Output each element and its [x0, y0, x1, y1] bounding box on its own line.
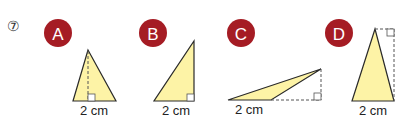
right-angle-mark-d	[387, 29, 394, 36]
badge-d-label: D	[333, 25, 345, 44]
triangle-d-shape	[352, 29, 394, 101]
right-angle-mark-b	[187, 94, 194, 101]
triangle-b-base-label: 2 cm	[162, 103, 190, 118]
right-angle-mark-a	[88, 94, 95, 101]
triangle-b: B 2 cm	[139, 19, 194, 118]
badge-a-label: A	[52, 25, 64, 44]
triangle-b-shape	[154, 41, 194, 101]
triangle-a-shape	[73, 50, 116, 101]
triangle-c-base-label: 2 cm	[235, 102, 263, 117]
right-angle-mark-c	[314, 93, 321, 100]
triangle-a: A 2 cm	[44, 19, 116, 118]
triangles-diagram: ⑦ A 2 cm B 2 cm C 2 cm D 2 cm	[0, 0, 399, 121]
triangle-c: C 2 cm	[227, 19, 321, 117]
triangle-a-base-label: 2 cm	[80, 103, 108, 118]
triangle-c-shape	[228, 69, 321, 100]
badge-b-label: B	[147, 25, 158, 44]
triangle-d: D 2 cm	[325, 19, 394, 118]
triangle-d-base-label: 2 cm	[359, 103, 387, 118]
badge-c-label: C	[235, 25, 247, 44]
problem-number: ⑦	[7, 18, 20, 34]
